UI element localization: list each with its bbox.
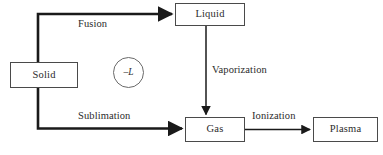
node-gas-label: Gas <box>207 124 224 135</box>
phase-transition-diagram: Solid Liquid Gas Plasma –L Fusion Vapori… <box>0 0 383 155</box>
node-solid-label: Solid <box>32 70 55 81</box>
edge-label-vaporization: Vaporization <box>212 65 267 76</box>
node-gas: Gas <box>185 117 245 142</box>
edge-label-fusion: Fusion <box>78 19 107 30</box>
node-plasma-label: Plasma <box>330 124 362 135</box>
node-liquid-label: Liquid <box>195 9 224 20</box>
latent-heat-label: –L <box>123 68 133 78</box>
latent-heat-annotation: –L <box>113 57 144 88</box>
node-plasma: Plasma <box>313 117 378 142</box>
edge-label-ionization: Ionization <box>252 111 296 122</box>
node-solid: Solid <box>10 62 78 88</box>
edge-label-sublimation: Sublimation <box>78 111 130 122</box>
node-liquid: Liquid <box>175 3 245 26</box>
